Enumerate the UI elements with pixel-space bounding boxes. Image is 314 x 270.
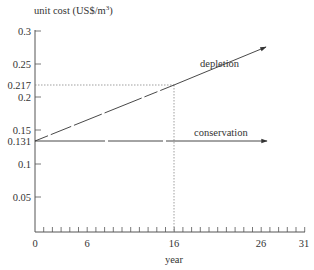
y-tick-labels: 0.3 0.25 0.217 0.2 0.15 0.131 0.1 0.05 bbox=[7, 26, 31, 203]
chart-canvas: unit cost (US$/m3) 0.3 0.25 0.217 0.2 0.… bbox=[0, 0, 314, 270]
label-conservation: conservation bbox=[194, 127, 248, 138]
x-tick-26: 26 bbox=[256, 238, 267, 249]
y-tick-0.25: 0.25 bbox=[13, 59, 31, 70]
y-tick-0.131: 0.131 bbox=[7, 136, 31, 147]
x-tick-0: 0 bbox=[32, 238, 37, 249]
y-ticks bbox=[35, 31, 41, 197]
y-axis-title: unit cost (US$/m3) bbox=[34, 4, 113, 17]
label-depletion: depletion bbox=[200, 58, 240, 69]
x-tick-16: 16 bbox=[169, 238, 180, 249]
x-tick-labels: 0 6 16 26 31 bbox=[32, 238, 309, 249]
y-tick-0.1: 0.1 bbox=[18, 159, 31, 170]
y-tick-0.2: 0.2 bbox=[18, 92, 31, 103]
y-tick-0.15: 0.15 bbox=[13, 125, 31, 136]
x-tick-31: 31 bbox=[299, 238, 310, 249]
y-tick-0.3: 0.3 bbox=[18, 26, 31, 37]
x-axis-title: year bbox=[165, 254, 184, 265]
y-tick-0.05: 0.05 bbox=[13, 192, 31, 203]
x-tick-6: 6 bbox=[84, 238, 89, 249]
y-tick-0.217: 0.217 bbox=[7, 80, 31, 91]
